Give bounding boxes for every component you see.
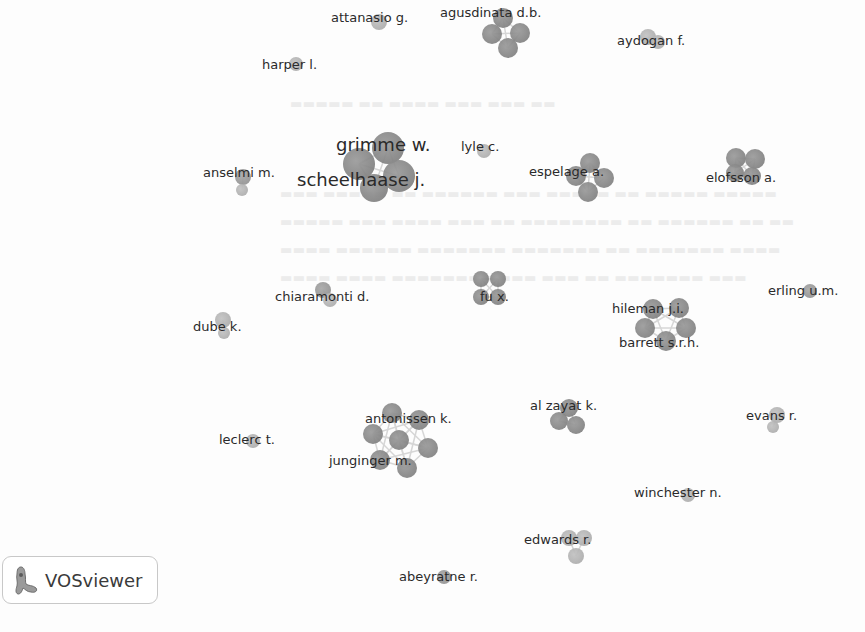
node-label-attanasio[interactable]: attanasio g. <box>331 11 408 24</box>
network-node-antonissen[interactable] <box>418 438 438 458</box>
network-links <box>0 0 865 632</box>
node-label-antonissen[interactable]: antonissen k. <box>365 412 452 425</box>
node-label-espelage[interactable]: espelage a. <box>529 165 604 178</box>
node-label-erling[interactable]: erling u.m. <box>768 284 838 297</box>
node-label-aydogan[interactable]: aydogan f. <box>617 34 685 47</box>
node-label-dube[interactable]: dube k. <box>193 320 242 333</box>
network-node-anselmi[interactable] <box>236 184 248 196</box>
node-label-elofsson[interactable]: elofsson a. <box>706 171 776 184</box>
node-label-antonissen[interactable]: junginger m. <box>329 454 412 467</box>
network-node-espelage[interactable] <box>578 182 598 202</box>
node-label-hileman[interactable]: barrett s.r.h. <box>619 336 699 349</box>
node-label-alzayat[interactable]: al zayat k. <box>530 399 597 412</box>
network-node-antonissen[interactable] <box>389 430 409 450</box>
node-label-hileman[interactable]: hileman j.i. <box>612 302 684 315</box>
network-node-fu[interactable] <box>473 271 489 287</box>
network-node-agusdinata[interactable] <box>498 38 518 58</box>
node-label-agusdinata[interactable]: agusdinata d.b. <box>440 6 541 19</box>
node-label-grimme[interactable]: scheelhaase j. <box>297 171 425 189</box>
node-label-grimme[interactable]: grimme w. <box>336 136 430 154</box>
network-node-edwards[interactable] <box>568 548 584 564</box>
node-label-evans[interactable]: evans r. <box>746 409 797 422</box>
network-node-antonissen[interactable] <box>363 424 383 444</box>
vosviewer-logo-icon <box>13 565 39 595</box>
node-label-abeyratne[interactable]: abeyratne r. <box>399 570 478 583</box>
vosviewer-logo-text: VOSviewer <box>45 570 143 591</box>
network-visualization-canvas[interactable]: ▬▬▬▬▬ ▬▬ ▬▬▬▬ ▬▬▬ ▬▬▬ ▬▬ ▬▬▬ ▬▬▬▬▬ ▬▬ ▬▬… <box>0 0 865 632</box>
network-node-elofsson[interactable] <box>745 149 765 169</box>
node-label-fu[interactable]: fu x. <box>480 290 509 303</box>
node-label-edwards[interactable]: edwards r. <box>524 533 591 546</box>
node-label-leclerc[interactable]: leclerc t. <box>219 433 275 446</box>
node-label-winchester[interactable]: winchester n. <box>634 486 722 499</box>
node-label-harper[interactable]: harper l. <box>262 58 317 71</box>
vosviewer-logo-badge[interactable]: VOSviewer <box>2 556 158 604</box>
node-label-anselmi[interactable]: anselmi m. <box>203 166 275 179</box>
node-label-chiaramonti[interactable]: chiaramonti d. <box>275 290 369 303</box>
network-node-fu[interactable] <box>490 271 506 287</box>
node-label-lyle[interactable]: lyle c. <box>461 140 499 153</box>
network-node-alzayat[interactable] <box>550 412 568 430</box>
network-node-alzayat[interactable] <box>567 416 585 434</box>
